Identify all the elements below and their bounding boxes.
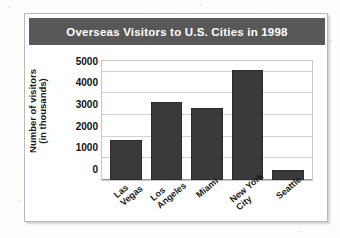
- plot-area: 010002000300040005000: [101, 60, 313, 181]
- chart-card: Overseas Visitors to U.S. Cities in 1998…: [24, 13, 328, 222]
- x-axis-labels: LasVegasLosAngelesMiamiNew YorkCitySeatt…: [101, 182, 313, 232]
- page-background: Overseas Visitors to U.S. Cities in 1998…: [0, 0, 340, 238]
- bar-los-angeles: [151, 102, 183, 180]
- y-tick-label: 5000: [76, 55, 98, 66]
- x-label-slot: LosAngeles: [146, 182, 187, 232]
- bar-slot: [106, 61, 146, 180]
- x-label-slot: LasVegas: [105, 182, 146, 232]
- y-tick-label: 4000: [76, 77, 98, 88]
- chart-body: Number of visitors (in thousands) 010002…: [29, 45, 325, 219]
- bar-las-vegas: [110, 140, 142, 180]
- x-label-slot: Seattle: [268, 182, 309, 232]
- bar-slot: [187, 61, 227, 180]
- y-axis-title-line-2: (in thousands): [38, 78, 48, 143]
- y-tick-label: 0: [92, 164, 98, 175]
- bar-slot: [268, 61, 308, 180]
- x-label-slot: Miami: [187, 182, 228, 232]
- bar-series: [102, 61, 312, 180]
- bar-miami: [191, 108, 223, 180]
- bar-new-york-city: [232, 70, 264, 180]
- x-label-slot: New YorkCity: [227, 182, 268, 232]
- bar-slot: [146, 61, 186, 180]
- y-axis-title: Number of visitors (in thousands): [25, 55, 51, 167]
- chart-title-bar: Overseas Visitors to U.S. Cities in 1998: [29, 18, 325, 45]
- bar-slot: [227, 61, 267, 180]
- page-title: Overseas Visitors to U.S. Cities in 1998: [66, 26, 287, 38]
- plot-inner: 010002000300040005000: [102, 61, 312, 180]
- y-tick-label: 1000: [76, 142, 98, 153]
- y-tick-label: 3000: [76, 99, 98, 110]
- y-tick-label: 2000: [76, 120, 98, 131]
